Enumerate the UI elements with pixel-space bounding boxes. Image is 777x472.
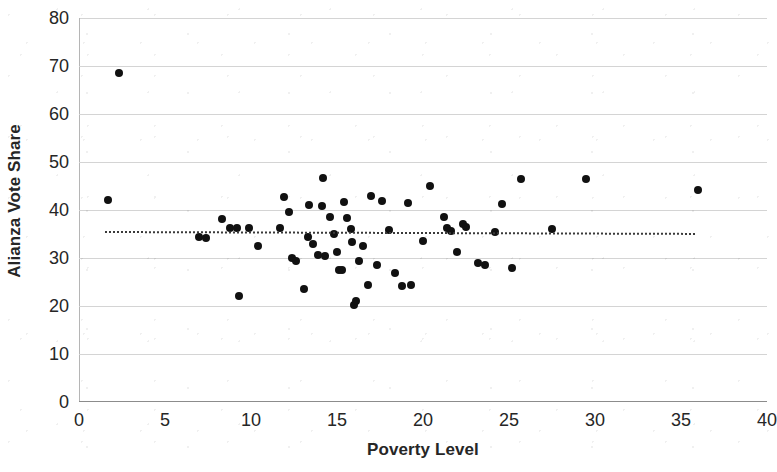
data-point xyxy=(280,193,288,201)
gridline xyxy=(79,114,767,115)
y-axis-tick-label: 50 xyxy=(21,152,69,173)
data-point xyxy=(319,174,327,182)
data-point xyxy=(398,282,406,290)
data-point xyxy=(582,175,590,183)
data-point xyxy=(378,197,386,205)
data-point xyxy=(285,208,293,216)
y-axis-tick-label: 10 xyxy=(21,344,69,365)
data-point xyxy=(694,186,702,194)
data-point xyxy=(254,242,262,250)
data-point xyxy=(404,199,412,207)
data-point xyxy=(359,242,367,250)
trendline xyxy=(105,231,695,235)
x-axis-tick-label: 30 xyxy=(573,410,617,431)
data-point xyxy=(391,269,399,277)
data-point xyxy=(300,285,308,293)
data-point xyxy=(202,234,210,242)
x-axis-tick-label: 0 xyxy=(57,410,101,431)
data-point xyxy=(292,257,300,265)
data-point xyxy=(355,257,363,265)
x-axis-tick-label: 10 xyxy=(229,410,273,431)
data-point xyxy=(352,297,360,305)
data-point xyxy=(453,248,461,256)
data-point xyxy=(440,213,448,221)
data-point xyxy=(218,215,226,223)
data-point xyxy=(481,261,489,269)
data-point xyxy=(508,264,516,272)
data-point xyxy=(276,224,284,232)
data-point xyxy=(373,261,381,269)
x-axis-title-container: Poverty Level xyxy=(79,440,767,460)
y-axis-tick-label: 20 xyxy=(21,296,69,317)
gridline xyxy=(79,162,767,163)
plot-top-border xyxy=(79,18,767,19)
data-point xyxy=(235,292,243,300)
gridline xyxy=(79,306,767,307)
data-point xyxy=(517,175,525,183)
gridline xyxy=(79,258,767,259)
data-point xyxy=(338,266,346,274)
x-axis-tick-label: 25 xyxy=(487,410,531,431)
data-point xyxy=(407,281,415,289)
data-point xyxy=(305,201,313,209)
x-axis-tick-label: 15 xyxy=(315,410,359,431)
data-point xyxy=(348,238,356,246)
data-point xyxy=(367,192,375,200)
y-axis-tick-label: 30 xyxy=(21,248,69,269)
data-point xyxy=(498,200,506,208)
gridline xyxy=(79,210,767,211)
plot-area xyxy=(79,18,767,402)
x-axis-tick-label: 5 xyxy=(143,410,187,431)
data-point xyxy=(419,237,427,245)
data-point xyxy=(462,223,470,231)
data-point xyxy=(333,248,341,256)
data-point xyxy=(321,252,329,260)
scatter-chart: Alianza Vote Share 01020304050607080 051… xyxy=(0,0,777,472)
data-point xyxy=(309,240,317,248)
gridline xyxy=(79,354,767,355)
data-point xyxy=(426,182,434,190)
data-point xyxy=(326,213,334,221)
data-point xyxy=(340,198,348,206)
y-axis-tick-label: 60 xyxy=(21,104,69,125)
x-axis-tick-label: 20 xyxy=(401,410,445,431)
x-axis-tick-label: 40 xyxy=(745,410,777,431)
data-point xyxy=(364,281,372,289)
x-axis-title: Poverty Level xyxy=(367,440,479,460)
gridline xyxy=(79,66,767,67)
y-axis-tick-label: 40 xyxy=(21,200,69,221)
data-point xyxy=(343,214,351,222)
x-axis-tick-label: 35 xyxy=(659,410,703,431)
data-point xyxy=(318,202,326,210)
y-axis-tick-label: 80 xyxy=(21,8,69,29)
data-point xyxy=(115,69,123,77)
data-point xyxy=(104,196,112,204)
y-axis-tick-label: 70 xyxy=(21,56,69,77)
x-axis-line xyxy=(79,401,767,402)
